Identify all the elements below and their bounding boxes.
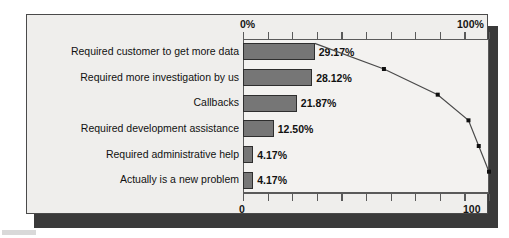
axis-tick [366,32,367,39]
axis-tick [489,32,490,39]
cumulative-line [315,43,489,171]
axis-tick [464,32,465,39]
cumulative-point-marker [466,118,470,122]
category-label: Callbacks [57,97,239,108]
axis-tick [268,194,269,201]
axis-tick [268,32,269,39]
chart-panel: 0% 100% 0 100 Required customer to get m… [26,14,488,214]
axis-tick [415,32,416,39]
axis-tick [243,194,244,201]
axis-tick [292,32,293,39]
axis-tick [317,194,318,201]
axis-tick [341,194,342,201]
axis-tick [391,32,392,39]
axis-tick [415,194,416,201]
cumulative-point-marker [487,170,491,174]
top-axis-left-label: 0% [240,18,255,30]
category-label: Required development assistance [57,123,239,134]
top-axis-right-label: 100% [457,18,484,30]
page-edge-artifact [2,230,36,235]
axis-tick [464,194,465,201]
bottom-axis-left-label: 0 [239,203,245,215]
cumulative-line-layer [243,39,489,193]
axis-tick [489,194,490,201]
pareto-chart-figure: 0% 100% 0 100 Required customer to get m… [0,0,509,238]
bottom-axis-right-label: 100 [463,203,481,215]
axis-tick [243,32,244,39]
category-label: Required administrative help [57,149,239,160]
category-label: Actually is a new problem [57,174,239,185]
cumulative-point-marker [477,144,481,148]
category-label-column: Required customer to get more dataRequir… [57,39,239,193]
axis-tick [366,194,367,201]
axis-tick [317,32,318,39]
axis-tick [440,194,441,201]
axis-tick [391,194,392,201]
cumulative-point-marker [436,93,440,97]
cumulative-point-marker [382,67,386,71]
category-label: Required customer to get more data [57,46,239,57]
axis-tick [292,194,293,201]
axis-tick [440,32,441,39]
category-label: Required more investigation by us [57,72,239,83]
axis-tick [341,32,342,39]
